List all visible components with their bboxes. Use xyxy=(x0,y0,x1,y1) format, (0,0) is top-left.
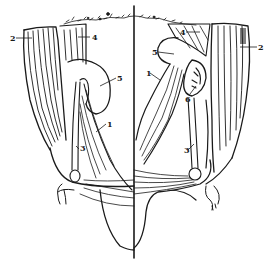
right-muscle-2 xyxy=(211,23,250,172)
label-left-5: 5 xyxy=(117,74,123,82)
anatomical-figure xyxy=(0,0,269,264)
left-bone-socket xyxy=(80,79,89,104)
right-lower-fan xyxy=(134,158,232,248)
label-right-4: 4 xyxy=(180,28,186,36)
label-right-3: 3 xyxy=(184,146,190,154)
right-tendon-3 xyxy=(188,98,208,180)
label-left-1: 1 xyxy=(107,120,113,128)
left-stump xyxy=(58,184,67,204)
leader-lines xyxy=(16,32,257,150)
label-left-4: 4 xyxy=(92,33,98,41)
gravel-band xyxy=(64,13,196,25)
left-lower-fan xyxy=(50,148,134,250)
right-muscle-1 xyxy=(136,64,184,164)
label-right-1: 1 xyxy=(146,69,152,77)
label-left-2: 2 xyxy=(10,34,16,42)
left-muscle-4 xyxy=(60,24,86,64)
left-tendon-3 xyxy=(70,82,80,182)
right-bone-head-5 xyxy=(158,38,178,64)
left-muscle-1 xyxy=(80,84,132,190)
label-right-6: 6 xyxy=(185,95,191,103)
label-right-2: 2 xyxy=(258,43,264,51)
right-bone-6 xyxy=(184,60,206,96)
left-muscle-2 xyxy=(24,27,66,150)
right-muscle-4 xyxy=(168,24,210,56)
label-left-3: 3 xyxy=(80,144,86,152)
right-stump xyxy=(206,186,220,210)
label-right-5: 5 xyxy=(152,48,158,56)
